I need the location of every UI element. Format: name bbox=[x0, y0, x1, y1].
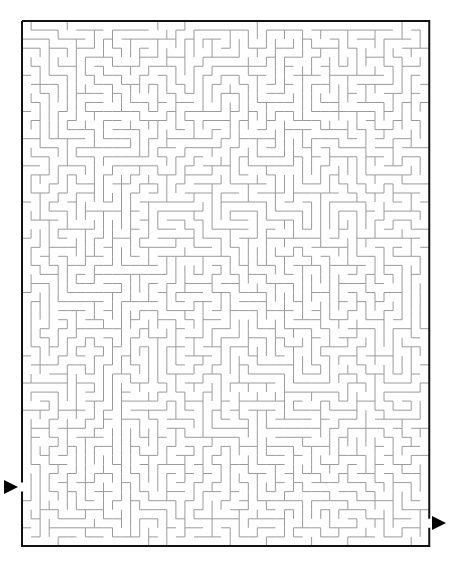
entry-arrow-icon bbox=[4, 480, 18, 494]
maze-grid bbox=[0, 0, 460, 568]
exit-arrow-icon bbox=[432, 516, 446, 530]
maze-walls bbox=[22, 21, 429, 546]
